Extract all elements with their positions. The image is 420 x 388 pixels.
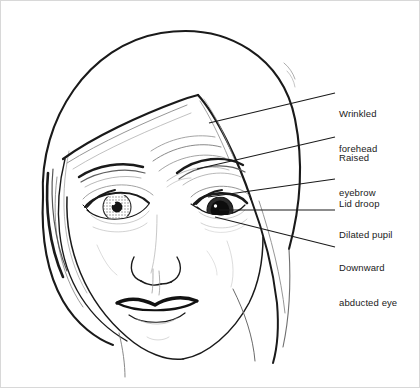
mouth [117,298,197,340]
affected-eye-right [177,159,249,233]
label-line-1: Downward [339,262,397,274]
label-line-2: abducted eye [339,297,397,309]
leader-downward-abducted-eye [215,217,335,247]
forehead-wrinkles [151,136,229,187]
face-contour [67,197,263,377]
illustration-figure: Wrinkled forehead Raised eyebrow Lid dro… [0,0,420,388]
leader-raised-eyebrow [197,137,335,169]
normal-eye-left [79,164,153,232]
label-line-1: Raised [339,152,376,164]
cheek-shading [97,241,233,287]
leader-lid-droop [208,179,335,197]
nose [131,215,180,295]
label-line-1: Wrinkled [339,108,377,120]
label-downward-abducted-eye: Downward abducted eye [339,239,397,331]
leader-wrinkled-forehead [209,93,335,123]
